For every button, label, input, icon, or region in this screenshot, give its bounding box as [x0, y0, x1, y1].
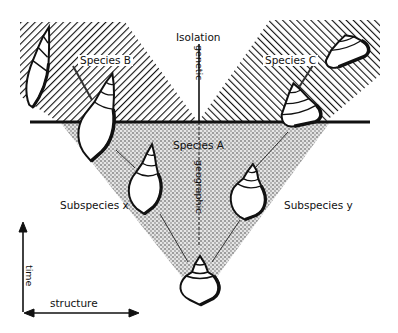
subspecies-x-label: Subspecies x [60, 200, 129, 211]
species-c-label: Species C [263, 55, 318, 66]
species-b-label: Species B [78, 55, 133, 66]
species-a-label: Species A [173, 140, 224, 151]
geographic-label: geographic [195, 160, 205, 213]
speciation-diagram: Isolation genetic Species B Species C Sp… [0, 0, 398, 333]
time-axis-label: time [25, 265, 35, 286]
subspecies-y-label: Subspecies y [284, 200, 353, 211]
isolation-label: Isolation [176, 32, 220, 43]
structure-axis-label: structure [50, 298, 98, 309]
genetic-label: genetic [195, 45, 205, 80]
